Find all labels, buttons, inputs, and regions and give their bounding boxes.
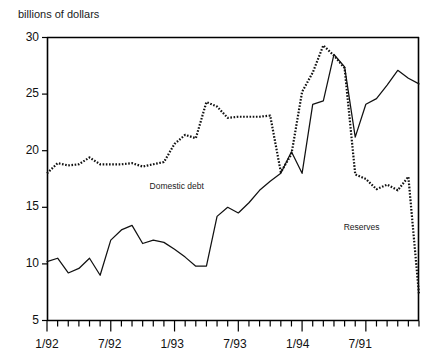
series-annotation-domestic-debt: Domestic debt xyxy=(150,181,205,191)
y-tick-label: 10 xyxy=(26,256,40,270)
x-tick-label: 7/92 xyxy=(98,337,122,351)
x-axis-ticks xyxy=(47,321,419,332)
x-tick-label: 7/91 xyxy=(349,337,373,351)
y-tick-label: 20 xyxy=(26,143,40,157)
line-chart-svg: 30 25 20 15 10 5 1/92 7/92 1/93 7/93 xyxy=(0,0,443,362)
axes xyxy=(47,37,419,321)
y-tick-label: 5 xyxy=(32,313,39,327)
x-tick-label: 1/92 xyxy=(35,337,59,351)
y-axis-tick-labels: 30 25 20 15 10 5 xyxy=(26,30,40,327)
x-tick-label: 1/94 xyxy=(286,337,310,351)
chart-container: billions of dollars 30 25 20 15 10 5 1/ xyxy=(0,0,443,362)
y-axis-ticks xyxy=(42,38,47,321)
series-annotation-reserves: Reserves xyxy=(344,222,380,232)
x-tick-label: 7/93 xyxy=(223,337,247,351)
series-line-reserves xyxy=(47,45,419,294)
y-tick-label: 30 xyxy=(26,30,40,44)
y-tick-label: 25 xyxy=(26,86,40,100)
x-axis-tick-labels: 1/92 7/92 1/93 7/93 1/94 7/91 xyxy=(35,337,372,351)
x-tick-label: 1/93 xyxy=(161,337,185,351)
y-tick-label: 15 xyxy=(26,199,40,213)
